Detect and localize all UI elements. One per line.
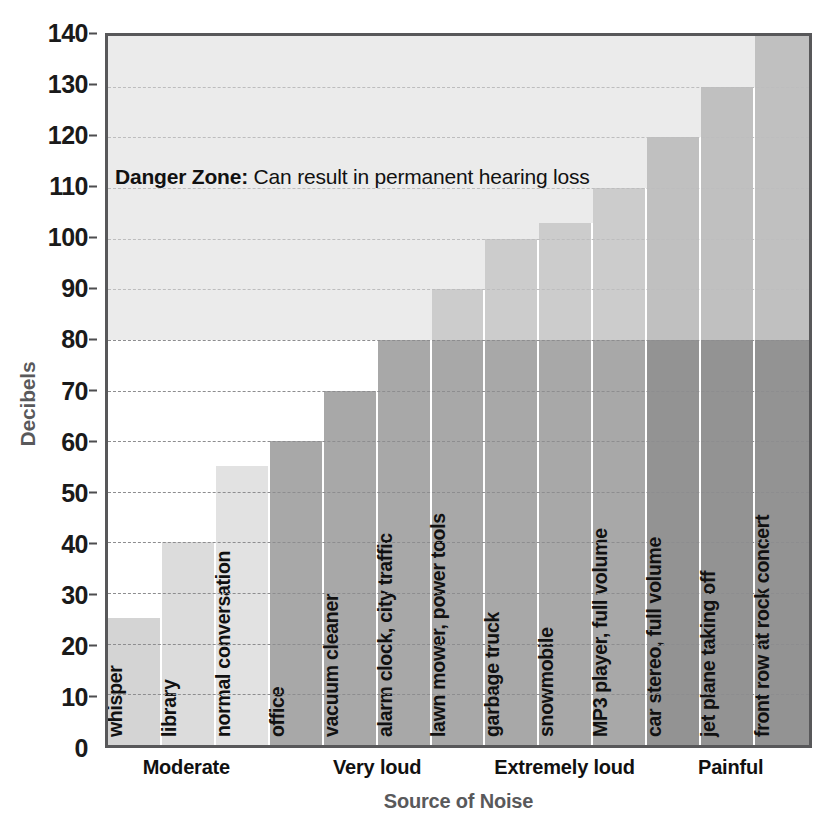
x-axis-group-labels: ModerateVery loudExtremely loudPainful — [105, 756, 812, 786]
gridline — [108, 441, 809, 442]
y-tick-mark — [89, 83, 97, 85]
bar-label: whisper — [105, 665, 127, 737]
y-tick-label: 100 — [48, 223, 88, 252]
danger-zone-note: Danger Zone: Can result in permanent hea… — [115, 165, 590, 189]
y-tick-mark — [89, 543, 97, 545]
danger-zone-note-text: Can result in permanent hearing loss — [248, 165, 590, 188]
gridline — [108, 542, 809, 543]
y-tick-mark — [89, 696, 97, 698]
gridline — [108, 239, 809, 240]
gridline — [108, 593, 809, 594]
bar-label: MP3 player, full volume — [589, 528, 612, 737]
y-tick-mark — [89, 441, 97, 443]
y-tick-mark — [89, 134, 97, 136]
y-tick-mark — [89, 645, 97, 647]
decibel-chart-page: Decibels 0102030405060708090100110120130… — [0, 0, 817, 825]
gridline — [108, 87, 809, 88]
y-tick-mark — [89, 32, 97, 34]
y-tick-label: 130 — [48, 70, 88, 99]
plot-inner: whisperlibrarynormal conversationofficev… — [108, 36, 809, 745]
danger-zone-note-prefix: Danger Zone: — [115, 165, 248, 188]
gridline — [108, 644, 809, 645]
x-axis-group-label: Very loud — [333, 756, 421, 779]
gridline — [108, 391, 809, 392]
bar-label: lawn mower, power tools — [427, 513, 450, 737]
gridline — [108, 694, 809, 695]
y-tick-mark — [89, 390, 97, 392]
y-tick-label: 50 — [61, 478, 88, 507]
x-axis-title: Source of Noise — [105, 790, 812, 813]
y-tick-label: 10 — [61, 682, 88, 711]
gridline — [108, 289, 809, 290]
gridline — [108, 492, 809, 493]
plot-area: whisperlibrarynormal conversationofficev… — [105, 33, 812, 748]
y-tick-label: 110 — [49, 172, 88, 201]
y-tick-label: 20 — [61, 631, 88, 660]
y-tick-label: 140 — [48, 19, 88, 48]
y-tick-mark — [89, 287, 97, 289]
bar-label: car stereo, full volume — [643, 537, 666, 737]
x-axis-group-label: Extremely loud — [494, 756, 635, 779]
y-tick-label: 30 — [61, 580, 88, 609]
bar-label: alarm clock, city traffic — [374, 533, 397, 737]
y-tick-label: 60 — [61, 427, 88, 456]
y-tick-mark — [89, 185, 97, 187]
y-tick-label: 90 — [61, 274, 88, 303]
gridline — [108, 137, 809, 138]
y-tick-label: 0 — [75, 734, 88, 763]
bar-label: jet plane taking off — [697, 571, 720, 737]
bar-label: vacuum cleaner — [320, 594, 343, 737]
y-tick-label: 80 — [61, 325, 88, 354]
y-tick-label: 40 — [61, 529, 88, 558]
y-tick-mark — [89, 492, 97, 494]
gridline — [108, 340, 809, 341]
y-tick-label: 120 — [48, 121, 88, 150]
x-axis-group-label: Moderate — [143, 756, 230, 779]
y-tick-mark — [89, 594, 97, 596]
y-tick-mark — [89, 338, 97, 340]
y-axis-tick-labels: 0102030405060708090100110120130140 — [30, 0, 98, 825]
y-tick-mark — [89, 236, 97, 238]
bar-label: garbage truck — [481, 612, 504, 737]
bar-label: library — [158, 679, 181, 737]
x-axis-group-label: Painful — [698, 756, 763, 779]
bar-label: front row at rock concert — [751, 515, 774, 737]
y-tick-label: 70 — [61, 376, 88, 405]
